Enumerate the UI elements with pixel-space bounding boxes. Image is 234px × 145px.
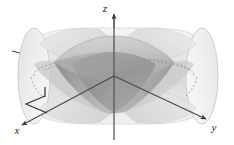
x-axis-label: x xyxy=(14,124,20,136)
y-axis-label: y xyxy=(211,121,217,133)
cylinder-intersection-figure: z x y xyxy=(0,0,234,145)
figure-canvas: z x y xyxy=(0,0,234,145)
z-axis-label: z xyxy=(102,2,108,14)
